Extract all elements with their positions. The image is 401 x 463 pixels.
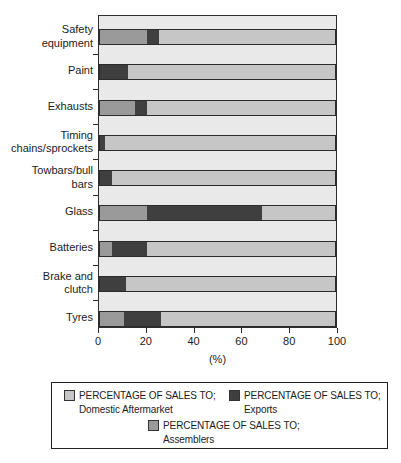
bar-segment	[100, 206, 147, 220]
legend-label-line1: PERCENTAGE OF SALES TO;	[163, 420, 300, 431]
bar-row	[99, 100, 336, 116]
bar-row	[99, 276, 336, 292]
legend: PERCENTAGE OF SALES TO;Domestic Aftermar…	[51, 382, 388, 449]
y-axis-tick	[93, 89, 98, 90]
bar-segment	[105, 136, 335, 150]
y-axis-tick	[93, 159, 98, 160]
x-axis-tick	[337, 328, 338, 333]
category-label: Tyres	[0, 311, 93, 325]
category-label: Paint	[0, 65, 93, 79]
y-axis-tick	[93, 265, 98, 266]
x-axis-tick-label: 80	[274, 335, 304, 347]
x-axis-tick-label: 40	[179, 335, 209, 347]
category-label: Towbars/bull bars	[0, 164, 93, 191]
bar-row	[99, 135, 336, 151]
bar-row	[99, 170, 336, 186]
legend-swatch	[64, 390, 75, 401]
category-label: Glass	[0, 206, 93, 220]
bar-segment	[147, 206, 262, 220]
category-label: Brake and clutch	[0, 269, 93, 296]
bar-segment	[100, 30, 147, 44]
legend-label: PERCENTAGE OF SALES TO;Domestic Aftermar…	[79, 389, 216, 416]
legend-label-line1: PERCENTAGE OF SALES TO;	[244, 390, 381, 401]
bar-segment	[100, 171, 112, 185]
y-axis-tick	[93, 300, 98, 301]
axis-label-percent: (%)	[98, 353, 337, 365]
legend-item-assemblers: PERCENTAGE OF SALES TO;Assemblers	[148, 419, 300, 446]
x-axis-tick	[98, 328, 99, 333]
legend-swatch	[229, 390, 240, 401]
x-axis-tick-label: 0	[83, 335, 113, 347]
x-axis-tick-label: 60	[226, 335, 256, 347]
x-axis-tick	[241, 328, 242, 333]
bar-segment	[147, 242, 335, 256]
legend-label-line2: Assemblers	[163, 434, 214, 445]
x-axis-tick-label: 20	[131, 335, 161, 347]
bar-segment	[100, 277, 126, 291]
bar-row	[99, 29, 336, 45]
x-axis-tick	[194, 328, 195, 333]
x-axis-tick	[146, 328, 147, 333]
bar-segment	[100, 101, 135, 115]
bar-row	[99, 64, 336, 80]
bar-segment	[147, 30, 159, 44]
legend-label-line1: PERCENTAGE OF SALES TO;	[79, 390, 216, 401]
bar-segment	[135, 101, 147, 115]
legend-label-line2: Domestic Aftermarket	[79, 404, 173, 415]
category-label: Timing chains/sprockets	[0, 128, 93, 155]
bar-segment	[128, 65, 335, 79]
chart: (%) PERCENTAGE OF SALES TO;Domestic Afte…	[0, 0, 401, 463]
bar-row	[99, 205, 336, 221]
plot-area	[98, 15, 337, 328]
bar-segment	[124, 312, 162, 326]
bar-segment	[112, 242, 147, 256]
category-label: Batteries	[0, 241, 93, 255]
legend-label: PERCENTAGE OF SALES TO;Exports	[244, 389, 381, 416]
bar-segment	[100, 242, 112, 256]
x-axis-tick	[289, 328, 290, 333]
y-axis-tick	[93, 54, 98, 55]
legend-label: PERCENTAGE OF SALES TO;Assemblers	[163, 419, 300, 446]
bar-row	[99, 241, 336, 257]
bar-segment	[100, 65, 128, 79]
legend-swatch	[148, 420, 159, 431]
bar-segment	[262, 206, 335, 220]
y-axis-tick	[93, 195, 98, 196]
category-label: Safety equipment	[0, 23, 93, 50]
y-axis-tick	[93, 124, 98, 125]
legend-label-line2: Exports	[244, 404, 277, 415]
legend-item-exports: PERCENTAGE OF SALES TO;Exports	[229, 389, 381, 416]
legend-item-domestic-aftermarket: PERCENTAGE OF SALES TO;Domestic Aftermar…	[64, 389, 216, 416]
bar-row	[99, 311, 336, 327]
bar-segment	[159, 30, 335, 44]
category-label: Exhausts	[0, 100, 93, 114]
bar-segment	[161, 312, 335, 326]
x-axis-tick-label: 100	[322, 335, 352, 347]
bar-segment	[112, 171, 335, 185]
bar-segment	[126, 277, 335, 291]
y-axis-tick	[93, 230, 98, 231]
bar-segment	[100, 312, 124, 326]
bar-segment	[147, 101, 335, 115]
